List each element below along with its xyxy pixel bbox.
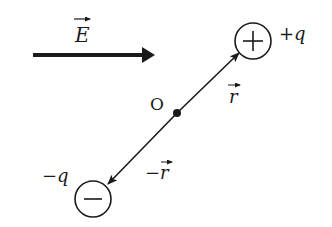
arrowhead-icon <box>142 47 155 63</box>
negative-charge-label: −q <box>42 165 69 186</box>
dipole-diagram: E O +q −q r −r <box>0 0 332 227</box>
field-arrow <box>33 47 155 63</box>
origin-label: O <box>150 94 164 114</box>
negative-position-vector-label: −r <box>145 162 172 183</box>
field-label: E <box>74 19 90 47</box>
positive-charge-label: +q <box>279 23 306 44</box>
svg-text:−r: −r <box>145 162 170 183</box>
svg-text:r: r <box>229 86 239 107</box>
field-label-text: E <box>74 23 90 47</box>
positive-charge <box>235 23 271 59</box>
negative-charge <box>75 181 111 217</box>
position-vector-label: r <box>228 85 240 107</box>
origin-dot <box>173 109 181 117</box>
